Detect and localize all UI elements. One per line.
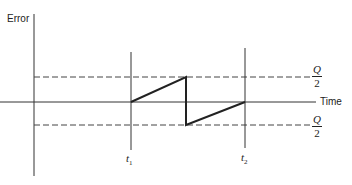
x-axis-label: Time <box>320 96 342 107</box>
upper-bound-label: Q 2 <box>312 64 322 89</box>
lower-bound-denominator: 2 <box>314 128 320 139</box>
upper-bound-numerator: Q <box>313 64 321 75</box>
lower-bound-numerator: Q <box>313 114 321 125</box>
t2-label: t2 <box>241 151 248 166</box>
upper-bound-denominator: 2 <box>314 78 320 89</box>
lower-bound-label: Q 2 <box>312 114 322 139</box>
diagram-canvas <box>0 0 352 185</box>
t1-label: t1 <box>126 152 133 167</box>
sawtooth-error-waveform <box>131 77 245 125</box>
y-axis-label: Error <box>7 13 29 24</box>
